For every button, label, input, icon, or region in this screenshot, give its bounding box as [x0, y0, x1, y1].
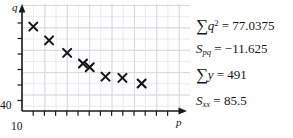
stat-value: −11.625: [225, 41, 268, 56]
stat-subscript: xx: [203, 99, 211, 109]
y-axis: [18, 4, 26, 111]
data-point-2: [45, 36, 53, 44]
scatter-chart: q p 40 10: [0, 0, 190, 138]
y-axis-tick-label-origin: 40: [0, 99, 12, 111]
stat-subscript: pq: [203, 47, 212, 57]
summation-icon: ∑: [196, 16, 208, 35]
equals-sign: =: [213, 93, 220, 108]
y-axis-label: q: [12, 1, 18, 13]
stat-s-xx: Sxx = 85.5: [196, 88, 293, 114]
stat-value: 85.5: [224, 93, 247, 108]
stat-superscript: 2: [214, 18, 218, 28]
data-point-7: [118, 74, 126, 82]
stat-value: 77.0375: [232, 18, 274, 33]
data-point-markers: [29, 23, 145, 88]
chart-canvas: [0, 0, 190, 138]
stat-variable: y: [208, 67, 214, 82]
summation-icon: ∑: [196, 65, 208, 84]
equals-sign: =: [214, 41, 221, 56]
statistics-list: ∑q2 = 77.0375 Spq = −11.625 ∑y = 491 Sxx…: [196, 10, 293, 130]
stat-value: 491: [227, 67, 247, 82]
data-point-1: [29, 23, 37, 31]
data-point-6: [102, 73, 110, 81]
x-axis: [22, 108, 187, 116]
stat-sum-q-squared: ∑q2 = 77.0375: [196, 10, 293, 36]
stat-sum-y: ∑y = 491: [196, 62, 293, 88]
equals-sign: =: [217, 67, 224, 82]
data-point-8: [138, 80, 146, 88]
x-axis-tick-label-origin: 10: [11, 120, 23, 132]
data-point-3: [63, 49, 71, 57]
x-axis-label: p: [176, 116, 182, 128]
stat-s-pq: Spq = −11.625: [196, 36, 293, 62]
equals-sign: =: [222, 18, 229, 33]
scatter-plot-with-statistics: q p 40 10 ∑q2 = 77.0375 Spq = −11.625 ∑y…: [0, 0, 293, 138]
